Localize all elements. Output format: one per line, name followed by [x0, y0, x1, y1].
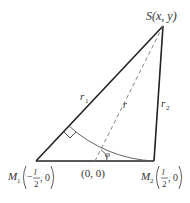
svg-text:, 0: , 0	[168, 172, 178, 183]
bipolar-coordinate-diagram: S(x, y) r 1 r r 2 φ (0, 0) M 1 − l 2 , 0…	[0, 0, 190, 203]
svg-text:2: 2	[162, 179, 167, 189]
svg-text:−: −	[27, 171, 33, 182]
right-angle-marker	[64, 132, 76, 138]
label-phi: φ	[105, 149, 110, 159]
label-r1: r 1	[80, 90, 89, 105]
svg-text:l: l	[162, 167, 165, 177]
svg-text:l: l	[34, 167, 37, 177]
svg-text:2: 2	[166, 104, 170, 112]
label-M1: M 1 − l 2 , 0	[7, 166, 54, 189]
svg-text:, 0: , 0	[40, 172, 50, 183]
svg-text:1: 1	[85, 97, 89, 105]
label-r2: r 2	[161, 97, 170, 112]
svg-text:2: 2	[150, 177, 154, 185]
dashed-r	[95, 26, 163, 161]
side-r1	[36, 26, 163, 161]
svg-text:r: r	[123, 99, 127, 110]
label-M2: M 2 l 2 , 0	[140, 166, 182, 189]
svg-text:2: 2	[34, 179, 39, 189]
label-origin: (0, 0)	[81, 167, 105, 180]
label-r: r	[123, 99, 127, 110]
arc-r2	[69, 126, 154, 161]
side-r2	[154, 26, 163, 161]
label-S: S(x, y)	[146, 9, 177, 23]
svg-text:1: 1	[17, 177, 21, 185]
